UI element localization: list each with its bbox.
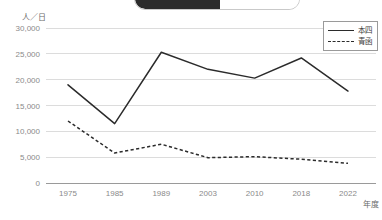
x-axis-unit-label: 年度 (363, 199, 379, 209)
y-axis-tick: 0 (36, 179, 41, 188)
x-axis-tick: 1985 (106, 189, 124, 198)
y-axis-tick: 25,000 (16, 50, 41, 59)
y-axis-tick: 30,000 (16, 24, 41, 33)
legend-item[interactable]: 青函 (328, 36, 372, 47)
x-axis-tick: 2010 (246, 189, 264, 198)
y-axis-tick-labels: 05,00010,00015,00020,00025,00030,000 (16, 24, 41, 188)
series-line-solid (68, 52, 348, 123)
legend-item-label: 本四 (358, 27, 372, 35)
y-axis-tick: 10,000 (16, 127, 41, 136)
gridlines (46, 28, 376, 183)
y-axis-tick: 5,000 (20, 153, 41, 162)
x-axis-tick: 2018 (292, 189, 310, 198)
legend-swatch-solid (328, 30, 354, 31)
x-axis-tick: 2003 (199, 189, 217, 198)
y-axis-tick: 20,000 (16, 76, 41, 85)
legend-swatch-dashed (328, 41, 354, 42)
x-axis-tick-labels: 1975198519892003201020182022 (59, 189, 357, 198)
y-axis-tick: 15,000 (16, 102, 41, 111)
series-lines (68, 52, 348, 163)
chart-legend: 本四青函 (323, 21, 378, 51)
x-axis-tick: 1975 (59, 189, 77, 198)
legend-item-label: 青函 (358, 38, 372, 46)
x-axis-tick: 1989 (152, 189, 170, 198)
y-axis-unit-label: 人／日 (22, 13, 46, 22)
legend-item[interactable]: 本四 (328, 25, 372, 36)
x-axis-tick: 2022 (339, 189, 357, 198)
